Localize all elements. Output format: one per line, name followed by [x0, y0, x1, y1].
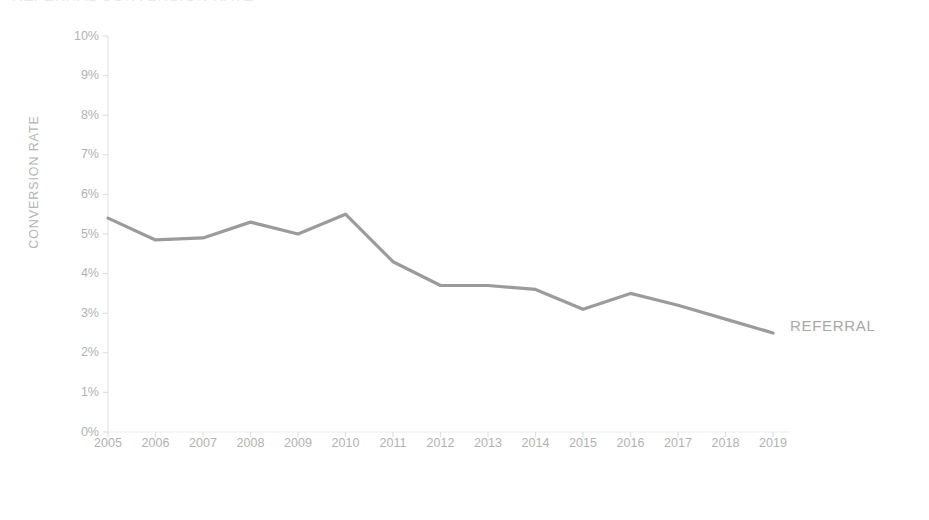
data-series-group	[108, 214, 773, 333]
y-axis-ticks	[103, 36, 108, 432]
line-chart: REFERRAL CONVERSION RATE CONVERSION RATE…	[0, 0, 929, 520]
series-label-referral: REFERRAL	[790, 317, 876, 334]
series-line-referral	[108, 214, 773, 333]
x-tick-label: 2019	[743, 436, 803, 450]
x-axis-tick-labels: 2005200620072008200920102011201220132014…	[0, 436, 929, 456]
